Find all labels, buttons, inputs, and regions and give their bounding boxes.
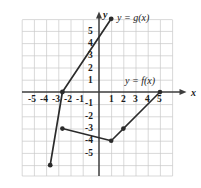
x-tick-neg1: -1 <box>76 95 84 105</box>
y-axis-label: y <box>103 10 107 20</box>
x-tick-4: 4 <box>145 95 150 105</box>
x-tick-2: 2 <box>121 95 126 105</box>
y-tick-neg4: -4 <box>85 136 93 146</box>
x-tick-neg2: -2 <box>64 95 72 105</box>
y-tick-1: 1 <box>88 76 93 86</box>
y-tick-neg2: -2 <box>85 112 93 122</box>
y-tick-neg5: -5 <box>85 149 93 159</box>
x-tick-3: 3 <box>133 95 138 105</box>
y-tick-neg3: -3 <box>85 124 93 134</box>
x-tick-neg3: -3 <box>52 95 60 105</box>
y-tick-2: 2 <box>88 64 93 74</box>
y-tick-5: 5 <box>88 27 93 37</box>
x-tick-neg4: -4 <box>40 95 48 105</box>
y-tick-neg1: -1 <box>85 99 93 109</box>
y-tick-4: 4 <box>88 39 93 49</box>
y-tick-3: 3 <box>88 51 93 61</box>
x-tick-1: 1 <box>109 95 114 105</box>
x-axis-label: x <box>191 88 196 98</box>
x-tick-5: 5 <box>157 95 162 105</box>
x-tick-neg5: -5 <box>28 95 36 105</box>
graph-figure: x y y = g(x) y = f(x) -5 -4 -3 -2 -1 1 2… <box>0 0 201 188</box>
curve-label-f: y = f(x) <box>125 76 155 86</box>
curve-label-g: y = g(x) <box>117 13 149 23</box>
